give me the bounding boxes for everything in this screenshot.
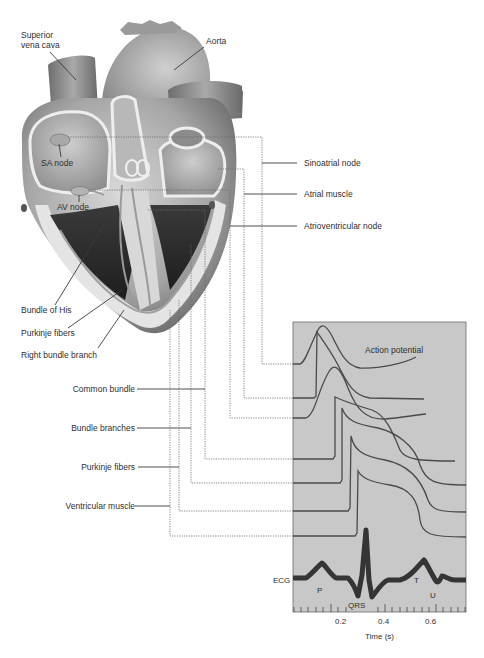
wave-u-label: U (430, 591, 436, 600)
label-ventricular-muscle: Ventricular muscle (66, 501, 136, 511)
label-common-bundle: Common bundle (73, 384, 136, 394)
x-tick-0-6: 0.6 (425, 617, 437, 626)
av-node-marker (71, 187, 89, 196)
sa-node-marker (50, 134, 70, 146)
label-av-node: AV node (57, 202, 89, 212)
label-superior-vena-cava-1: Superior (21, 30, 53, 40)
action-potential-panel: Action potential ECG P QRS T U (273, 322, 466, 612)
label-right-bundle-branch: Right bundle branch (21, 350, 97, 360)
cardiac-conduction-diagram: Superior vena cava Aorta SA node AV node… (0, 0, 484, 658)
wave-p-label: P (317, 586, 322, 595)
wave-t-label: T (414, 576, 419, 585)
label-aorta: Aorta (206, 36, 227, 46)
label-superior-vena-cava-2: vena cava (21, 40, 60, 50)
label-atrioventricular-node: Atrioventricular node (304, 221, 382, 231)
label-sinoatrial-node: Sinoatrial node (304, 158, 361, 168)
x-axis-label: Time (s) (365, 632, 394, 641)
label-atrial-muscle: Atrial muscle (304, 189, 353, 199)
x-tick-0-4: 0.4 (378, 617, 390, 626)
wave-qrs-label: QRS (348, 601, 365, 610)
label-purkinje-fibers: Purkinje fibers (21, 328, 75, 338)
ecg-label: ECG (273, 576, 290, 585)
label-sa-node: SA node (41, 158, 73, 168)
label-purkinje-fibers-2: Purkinje fibers (81, 462, 135, 472)
x-tick-0-2: 0.2 (335, 617, 347, 626)
action-potential-label: Action potential (365, 345, 423, 355)
label-bundle-branches: Bundle branches (71, 423, 135, 433)
heart-illustration (21, 20, 243, 333)
label-bundle-of-his: Bundle of His (21, 305, 72, 315)
